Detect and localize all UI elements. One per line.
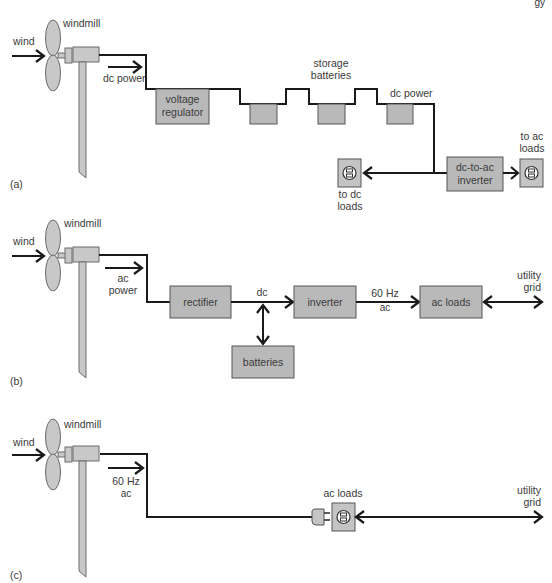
ac-loads-arrow-icon <box>503 167 518 179</box>
ac-loads-label-1: to ac <box>521 130 544 142</box>
panel-label-c: (c) <box>10 569 22 581</box>
utility-grid-label-2: grid <box>523 281 541 293</box>
dc-outlet-icon <box>338 159 361 187</box>
battery-1 <box>250 104 277 124</box>
inverter-label-2: inverter <box>457 174 493 186</box>
ac-loads-label: ac loads <box>323 487 362 499</box>
windmill-icon <box>46 220 100 378</box>
freq-label-2: ac <box>380 302 391 313</box>
windmill-a <box>46 20 100 178</box>
dc-label: dc <box>256 286 267 298</box>
ac-loads-box: ac loads <box>420 286 482 318</box>
utility-grid-label-1: utility <box>517 269 542 281</box>
panel-label-b: (b) <box>10 375 23 387</box>
batteries-box: batteries <box>232 346 294 378</box>
battery-3 <box>387 104 413 124</box>
freq-label-1: 60 Hz <box>371 287 398 299</box>
wind-power-systems-figure: gy windmill wind dc power voltage regula… <box>0 0 552 583</box>
flow-arrow-icon <box>108 462 143 474</box>
storage-label-2: batteries <box>311 69 351 81</box>
ac-loads-label: ac loads <box>431 296 470 308</box>
inverter-label-1: dc-to-ac <box>456 161 494 173</box>
diagram-b: windmill wind ac power rectifier dc <box>10 217 542 387</box>
plug-icon <box>312 509 330 525</box>
diagram-a: windmill wind dc power voltage regulator… <box>10 17 545 212</box>
voltage-regulator-box: voltage regulator <box>156 89 209 124</box>
wind-label: wind <box>12 235 35 247</box>
dc-power-label: dc power <box>390 87 433 99</box>
freq-label-1: 60 Hz <box>112 475 139 487</box>
dc-power-flow-label: dc power <box>103 72 146 84</box>
grid-double-arrow-icon <box>484 296 542 308</box>
ac-power-label-1: ac <box>117 272 128 284</box>
grid-double-arrow-icon <box>356 511 542 523</box>
ac-loads-label-2: loads <box>519 142 544 154</box>
freq-label-2: ac <box>121 488 132 499</box>
dc-loads-label-2: loads <box>337 200 362 212</box>
dc-to-ac-inverter-box: dc-to-ac inverter <box>447 157 503 191</box>
wind-arrow-icon <box>12 250 44 262</box>
voltage-regulator-label-2: regulator <box>162 106 204 118</box>
windmill-label: windmill <box>62 17 100 29</box>
windmill-icon <box>46 419 100 577</box>
diagram-c: windmill wind 60 Hz ac ac loads utility … <box>10 418 542 581</box>
inverter-box: inverter <box>294 286 356 318</box>
windmill-icon <box>46 20 100 178</box>
page-header-fragment: gy <box>534 0 545 8</box>
ac-outlet-icon <box>332 503 355 531</box>
rectifier-label: rectifier <box>183 296 218 308</box>
panel-label-a: (a) <box>10 178 23 190</box>
battery-double-arrow-icon <box>257 305 269 344</box>
wind-label: wind <box>12 436 35 448</box>
wind-arrow-icon <box>12 449 44 461</box>
storage-label-1: storage <box>313 57 348 69</box>
windmill-label: windmill <box>63 217 101 229</box>
utility-grid-label-2: grid <box>523 496 541 508</box>
ac-power-label-2: power <box>109 284 138 296</box>
wind-arrow-icon <box>12 50 44 62</box>
battery-2 <box>318 104 345 124</box>
dc-loads-label-1: to dc <box>339 188 362 200</box>
rectifier-box: rectifier <box>170 286 231 318</box>
windmill-label: windmill <box>63 418 101 430</box>
voltage-regulator-label-1: voltage <box>166 93 200 105</box>
wind-label: wind <box>12 35 35 47</box>
utility-grid-label-1: utility <box>517 484 542 496</box>
inverter-label: inverter <box>307 296 343 308</box>
batteries-label: batteries <box>243 356 283 368</box>
ac-outlet-icon <box>520 159 543 187</box>
